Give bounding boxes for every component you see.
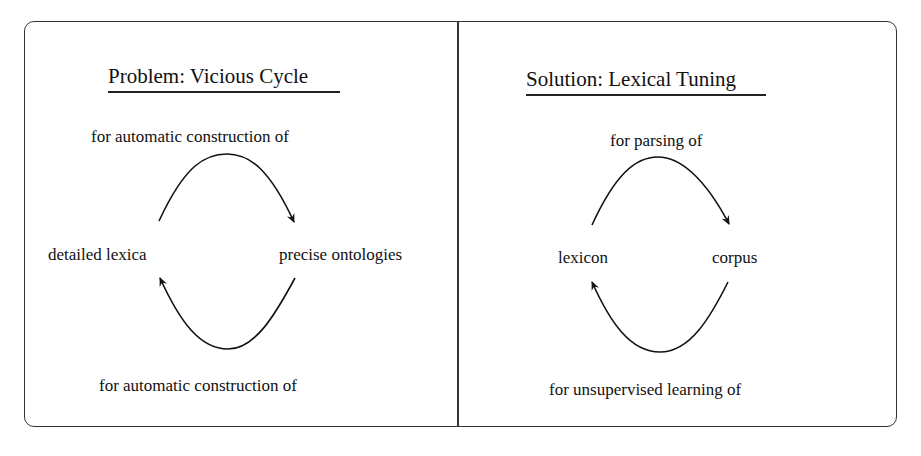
right-top-arrow xyxy=(592,157,729,225)
cycle-arrows xyxy=(0,0,921,456)
right-bottom-arrow xyxy=(592,282,728,352)
left-top-arrow xyxy=(159,154,294,222)
left-bottom-arrow xyxy=(160,278,295,349)
